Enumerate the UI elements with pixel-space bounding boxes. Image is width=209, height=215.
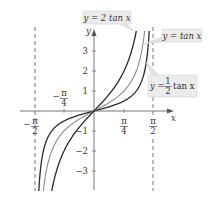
y-tick-label: 3 [83,46,88,56]
y-axis-arrow-icon [92,29,97,36]
svg-text:−: − [23,119,30,129]
svg-text:π: π [32,116,38,126]
x-tick-label-neg-pi-4: − π 4 [52,88,68,108]
svg-text:2: 2 [150,126,155,136]
svg-text:π: π [61,88,67,98]
svg-text:y = 2 tan x: y = 2 tan x [83,13,131,23]
y-tick-label: −1 [75,126,88,136]
x-tick-label-pi-2: π 2 [148,116,158,136]
annotation-half-tan: y = 1 2 tan x [146,62,197,97]
y-axis-label: y [85,26,91,36]
annotation-tan: y = tan x [143,29,202,44]
y-tick-label: 2 [83,66,88,76]
y-tick-label: −3 [75,166,88,176]
svg-text:y =: y = [149,81,165,91]
svg-text:−: − [52,91,59,101]
svg-text:π: π [150,116,156,126]
y-tick-label: 1 [83,86,88,96]
y-tick-label: −2 [75,146,88,156]
svg-text:2: 2 [32,126,37,136]
x-tick-label-pi-4: π 4 [120,116,128,136]
svg-text:y = tan x: y = tan x [162,31,202,41]
svg-text:4: 4 [61,98,66,108]
svg-text:1: 1 [165,76,170,86]
x-axis-label: x [171,113,176,123]
svg-text:π: π [121,116,127,126]
tangent-graph: y x 3 2 1 −1 −2 −3 − π 4 − π 2 π 4 [0,0,209,215]
plot-area: y x 3 2 1 −1 −2 −3 − π 4 − π 2 π 4 [0,0,209,215]
svg-text:4: 4 [121,126,126,136]
svg-text:tan x: tan x [173,81,195,91]
x-tick-label-neg-pi-2: − π 2 [23,116,39,136]
svg-text:2: 2 [165,86,170,96]
